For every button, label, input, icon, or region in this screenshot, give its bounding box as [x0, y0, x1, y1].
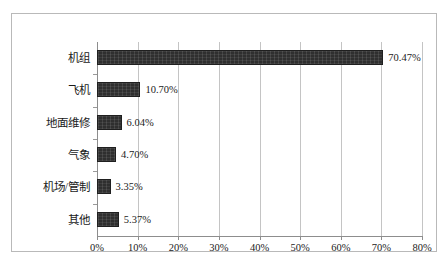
y-tick — [93, 171, 97, 172]
category-axis: 机组飞机地面维修气象机场/管制其他 — [12, 42, 97, 236]
bar-value-label: 10.70% — [145, 82, 177, 97]
x-tick-0% — [97, 236, 98, 240]
y-tick — [93, 139, 97, 140]
x-tick-80% — [422, 236, 423, 240]
x-tick-20% — [178, 236, 179, 240]
bar-row: 70.47% — [97, 42, 422, 74]
category-label-地面维修: 地面维修 — [19, 107, 97, 139]
bar-其他[interactable] — [97, 212, 119, 227]
bar-row: 3.35% — [97, 171, 422, 203]
category-label-其他: 其他 — [19, 204, 97, 236]
x-tick-label: 20% — [158, 242, 198, 253]
x-tick-label: 0% — [77, 242, 117, 253]
x-tick-70% — [381, 236, 382, 240]
category-label-机组: 机组 — [19, 42, 97, 74]
x-tick-40% — [260, 236, 261, 240]
y-tick — [93, 74, 97, 75]
x-tick-label: 80% — [402, 242, 442, 253]
x-tick-50% — [300, 236, 301, 240]
x-tick-label: 30% — [199, 242, 239, 253]
bar-value-label: 5.37% — [124, 212, 151, 227]
bar-row: 10.70% — [97, 74, 422, 106]
chart-frame: 70.47%10.70%6.04%4.70%3.35%5.37% 机组飞机地面维… — [11, 13, 437, 252]
gridline-80% — [422, 42, 423, 236]
x-tick-label: 50% — [280, 242, 320, 253]
bar-value-label: 70.47% — [388, 50, 420, 65]
x-tick-10% — [138, 236, 139, 240]
bar-气象[interactable] — [97, 147, 116, 162]
bar-地面维修[interactable] — [97, 115, 122, 130]
x-tick-label: 60% — [321, 242, 361, 253]
bar-飞机[interactable] — [97, 82, 140, 97]
bar-row: 5.37% — [97, 204, 422, 236]
category-label-气象: 气象 — [19, 139, 97, 171]
x-tick-label: 40% — [240, 242, 280, 253]
y-tick — [93, 204, 97, 205]
category-label-机场/管制: 机场/管制 — [19, 171, 97, 203]
x-tick-60% — [341, 236, 342, 240]
bar-机组[interactable] — [97, 50, 383, 65]
bar-value-label: 6.04% — [127, 115, 154, 130]
y-tick — [93, 107, 97, 108]
bar-机场/管制[interactable] — [97, 179, 111, 194]
x-tick-label: 10% — [118, 242, 158, 253]
bar-value-label: 4.70% — [121, 147, 148, 162]
bar-row: 6.04% — [97, 107, 422, 139]
x-tick-label: 70% — [361, 242, 401, 253]
bar-row: 4.70% — [97, 139, 422, 171]
bar-value-label: 3.35% — [116, 179, 143, 194]
plot-area: 70.47%10.70%6.04%4.70%3.35%5.37% — [97, 42, 422, 236]
x-tick-30% — [219, 236, 220, 240]
category-label-飞机: 飞机 — [19, 74, 97, 106]
